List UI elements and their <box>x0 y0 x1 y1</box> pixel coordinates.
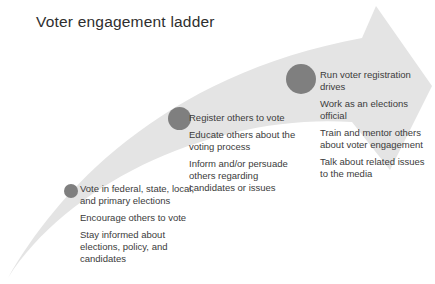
engagement-item: Train and mentor others about voter enga… <box>320 127 426 151</box>
level-2-text-block: Register others to vote Educate others a… <box>189 112 305 194</box>
level-3-marker-dot-icon <box>286 64 316 94</box>
engagement-item: Run voter registration drives <box>320 69 426 93</box>
voter-engagement-ladder-diagram: Voter engagement ladder Vote in federal,… <box>0 0 435 284</box>
engagement-item: Encourage others to vote <box>80 212 200 224</box>
level-1-text-block: Vote in federal, state, local, and prima… <box>80 183 200 265</box>
engagement-item: Work as an elections official <box>320 98 426 122</box>
engagement-item: Vote in federal, state, local, and prima… <box>80 183 200 207</box>
level-3-text-block: Run voter registration drives Work as an… <box>320 69 426 180</box>
engagement-item: Register others to vote <box>189 112 305 124</box>
page-title: Voter engagement ladder <box>36 13 215 31</box>
engagement-item: Talk about related issues to the media <box>320 156 426 180</box>
level-2-marker-dot-icon <box>168 107 191 130</box>
engagement-item: Stay informed about elections, policy, a… <box>80 229 200 265</box>
engagement-item: Educate others about the voting process <box>189 129 305 153</box>
level-1-marker-dot-icon <box>64 184 78 198</box>
engagement-item: Inform and/or persuade others regarding … <box>189 158 305 194</box>
